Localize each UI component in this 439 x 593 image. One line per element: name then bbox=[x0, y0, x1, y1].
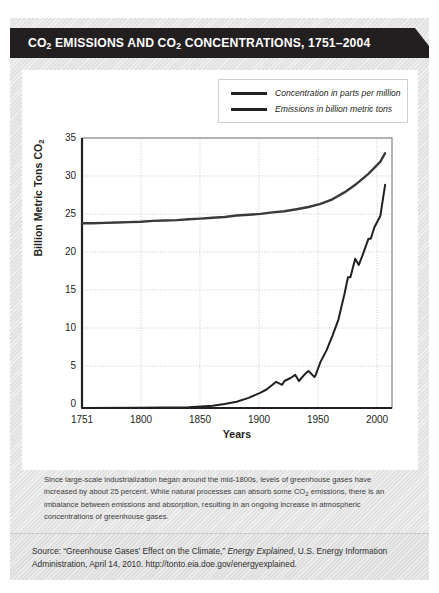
title-part-1: CO bbox=[28, 36, 47, 50]
title-subscript-2: 2 bbox=[176, 41, 181, 51]
legend-item-emissions: Emissions in billion metric tons bbox=[219, 101, 407, 117]
grid-lines bbox=[82, 138, 392, 408]
legend-label-concentration: Concentration in parts per million bbox=[275, 88, 401, 98]
caption-subscript: 2 bbox=[305, 491, 308, 497]
caption-line-1: Since large-scale industrialization bega… bbox=[44, 475, 353, 484]
chart-svg bbox=[22, 70, 418, 470]
figure-container: CO2 EMISSIONS AND CO2 CONCENTRATIONS, 17… bbox=[0, 0, 439, 593]
series-concentration-line bbox=[82, 153, 385, 223]
source-note: Source: “Greenhouse Gases’ Effect on the… bbox=[32, 545, 420, 571]
chart-legend: Concentration in parts per million Emiss… bbox=[218, 79, 408, 123]
figure-title-banner: CO2 EMISSIONS AND CO2 CONCENTRATIONS, 17… bbox=[10, 28, 429, 58]
caption-line-2b: emissions, bbox=[309, 487, 347, 496]
page-title: CO2 EMISSIONS AND CO2 CONCENTRATIONS, 17… bbox=[10, 36, 370, 50]
source-box: Source: “Greenhouse Gases’ Effect on the… bbox=[10, 534, 429, 580]
title-subscript-1: 2 bbox=[47, 41, 52, 51]
legend-label-emissions: Emissions in billion metric tons bbox=[275, 104, 392, 114]
figure-caption: Since large-scale industrialization bega… bbox=[44, 474, 400, 523]
legend-item-concentration: Concentration in parts per million bbox=[219, 85, 407, 101]
source-publication-title: Energy Explained bbox=[228, 546, 294, 556]
chart-card: Billion Metric Tons CO2 Years 35 30 25 2… bbox=[22, 70, 418, 470]
axis-frame bbox=[82, 138, 392, 408]
legend-swatch-concentration bbox=[231, 92, 267, 95]
legend-swatch-emissions bbox=[231, 108, 267, 111]
series-emissions-line bbox=[82, 185, 385, 408]
title-part-3: CONCENTRATIONS, 1751–2004 bbox=[181, 36, 370, 50]
source-prefix: Source: “Greenhouse Gases’ Effect on the… bbox=[32, 546, 228, 556]
title-part-2: EMISSIONS AND CO bbox=[52, 36, 177, 50]
plot-area: Billion Metric Tons CO2 Years 35 30 25 2… bbox=[22, 70, 418, 470]
